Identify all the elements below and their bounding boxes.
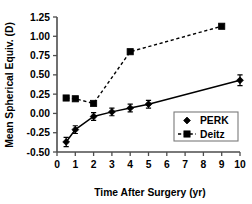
y-tick-label-5: 0.75 (30, 50, 50, 61)
y-tick-label-3: 0.25 (30, 89, 50, 100)
chart-svg: Mean Spherical Equiv. (D) -0.50-0.250.00… (0, 0, 252, 204)
x-tick-label-0: 0 (54, 159, 60, 170)
y-tick-label-2: 0.00 (30, 108, 50, 119)
x-axis-title-text: Time After Surgery (yr) (94, 187, 206, 198)
y-axis-title: Mean Spherical Equiv. (D) (4, 22, 15, 148)
y-tick-label-4: 0.50 (30, 69, 50, 80)
data-point-deitz-2 (91, 100, 97, 106)
x-tick-label-4: 4 (127, 159, 133, 170)
x-tick-label-10: 10 (234, 159, 246, 170)
data-point-deitz-0 (63, 95, 69, 101)
y-tick-label-0: -0.50 (27, 147, 51, 158)
chart-container: Mean Spherical Equiv. (D) -0.50-0.250.00… (0, 0, 252, 204)
x-tick-label-7: 7 (182, 159, 188, 170)
y-tick-label-6: 1.00 (30, 31, 50, 42)
data-point-deitz-1 (72, 96, 78, 102)
x-tick-label-9: 9 (219, 159, 225, 170)
legend-label-perk: PERK (200, 115, 229, 126)
data-point-deitz-4 (219, 23, 225, 29)
x-tick-label-1: 1 (72, 159, 78, 170)
chart-legend: PERKDeitz (174, 112, 238, 141)
x-tick-label-3: 3 (109, 159, 115, 170)
y-axis-title-text: Mean Spherical Equiv. (D) (4, 22, 15, 148)
y-tick-label-7: 1.25 (30, 12, 50, 23)
y-tick-label-1: -0.25 (27, 127, 51, 138)
x-tick-label-5: 5 (146, 159, 152, 170)
x-tick-label-2: 2 (91, 159, 97, 170)
x-tick-label-8: 8 (201, 159, 207, 170)
legend-marker-deitz (184, 131, 190, 137)
data-point-deitz-3 (127, 49, 133, 55)
legend-label-deitz: Deitz (200, 129, 225, 140)
x-tick-label-6: 6 (164, 159, 170, 170)
